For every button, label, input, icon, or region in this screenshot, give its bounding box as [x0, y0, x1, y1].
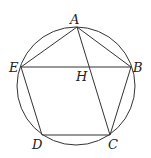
segment-AB: [77, 27, 131, 67]
label-A: A: [69, 12, 79, 27]
label-B: B: [132, 60, 143, 75]
point-labels: A B C D E H: [8, 12, 143, 152]
label-E: E: [8, 60, 19, 75]
geometry-diagram: A B C D E H: [0, 0, 151, 158]
label-D: D: [31, 137, 43, 152]
circumscribed-circle: [17, 27, 135, 145]
label-H: H: [75, 69, 88, 84]
label-C: C: [108, 137, 118, 152]
